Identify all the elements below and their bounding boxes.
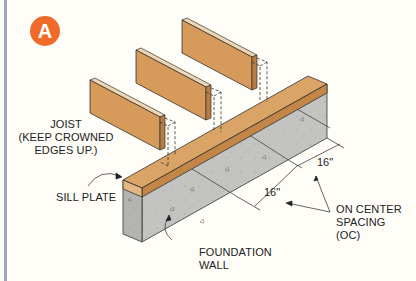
joist-label: JOIST (KEEP CROWNED EDGES UP.) bbox=[14, 118, 118, 157]
foundation-wall-label: FOUNDATION WALL bbox=[199, 246, 272, 272]
dimension-upper: 16" bbox=[317, 156, 333, 168]
oc-label-line1: ON CENTER bbox=[336, 203, 402, 216]
joist-label-line1: JOIST bbox=[14, 118, 118, 131]
oc-label-line3: (OC) bbox=[336, 229, 402, 242]
joist-label-line3: EDGES UP.) bbox=[14, 144, 118, 157]
on-center-spacing-label: ON CENTER SPACING (OC) bbox=[336, 203, 402, 242]
foundation-label-line2: WALL bbox=[199, 259, 272, 272]
dimension-lower: 16" bbox=[264, 186, 280, 198]
sill-plate-label: SILL PLATE bbox=[56, 191, 116, 204]
oc-label-line2: SPACING bbox=[336, 216, 402, 229]
joist-label-line2: (KEEP CROWNED bbox=[14, 131, 118, 144]
foundation-label-line1: FOUNDATION bbox=[199, 246, 272, 259]
